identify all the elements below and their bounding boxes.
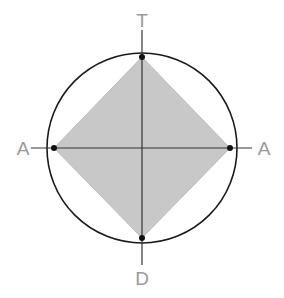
label-left: A [17, 138, 30, 159]
label-bottom: D [135, 268, 149, 289]
vertex-dot-bottom [139, 235, 145, 241]
label-top: T [136, 10, 148, 31]
vertex-dot-left [51, 145, 57, 151]
vertex-dot-right [227, 145, 233, 151]
diamond-circle-diagram: T D A A [0, 0, 284, 298]
vertex-dot-top [139, 54, 145, 60]
label-right: A [258, 138, 271, 159]
